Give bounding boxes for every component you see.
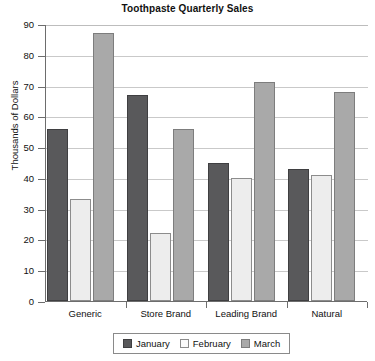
x-axis-tick: [367, 302, 368, 308]
y-axis-label: 0: [0, 297, 34, 307]
y-axis-tick: [38, 240, 45, 241]
y-axis-label: 90: [0, 20, 34, 30]
y-axis-label: 20: [0, 235, 34, 245]
bar-store-brand-january: [127, 95, 148, 301]
legend-label: January: [136, 338, 170, 349]
x-axis-label-generic: Generic: [45, 308, 126, 319]
legend-swatch-icon: [180, 339, 189, 348]
plot-area: [45, 25, 367, 302]
x-axis-label-leading-brand: Leading Brand: [206, 308, 287, 319]
legend-label: March: [254, 338, 280, 349]
legend-item-february: February: [180, 338, 231, 349]
gridline: [46, 25, 368, 26]
legend-label: February: [193, 338, 231, 349]
bar-leading-brand-february: [231, 178, 252, 301]
bar-chart: Toothpaste Quarterly Sales Thousands of …: [0, 0, 375, 361]
bar-leading-brand-january: [208, 163, 229, 302]
bar-generic-march: [93, 33, 114, 301]
y-axis-tick: [38, 210, 45, 211]
y-axis-label: 10: [0, 266, 34, 276]
y-axis-tick: [38, 179, 45, 180]
bar-natural-january: [288, 169, 309, 301]
x-axis-label-store-brand: Store Brand: [126, 308, 207, 319]
bar-store-brand-february: [150, 233, 171, 301]
chart-legend: JanuaryFebruaryMarch: [113, 333, 290, 354]
bar-natural-march: [334, 92, 355, 301]
legend-item-january: January: [123, 338, 170, 349]
y-axis-tick: [38, 87, 45, 88]
y-axis-label: 70: [0, 82, 34, 92]
legend-item-march: March: [241, 338, 280, 349]
y-axis-title: Thousands of Dollars: [9, 36, 20, 216]
legend-swatch-icon: [241, 339, 250, 348]
bar-store-brand-march: [173, 129, 194, 301]
y-axis-label: 60: [0, 112, 34, 122]
bar-leading-brand-march: [254, 82, 275, 301]
x-axis-label-natural: Natural: [287, 308, 368, 319]
bar-generic-january: [47, 129, 68, 301]
y-axis-tick: [38, 148, 45, 149]
y-axis-label: 30: [0, 205, 34, 215]
y-axis-label: 50: [0, 143, 34, 153]
y-axis-tick: [38, 25, 45, 26]
legend-swatch-icon: [123, 339, 132, 348]
chart-title: Toothpaste Quarterly Sales: [0, 3, 375, 14]
y-axis-tick: [38, 117, 45, 118]
bar-generic-february: [70, 199, 91, 301]
y-axis-label: 40: [0, 174, 34, 184]
y-axis-tick: [38, 271, 45, 272]
y-axis-tick: [38, 302, 45, 303]
y-axis-label: 80: [0, 51, 34, 61]
bar-natural-february: [311, 175, 332, 301]
y-axis-tick: [38, 56, 45, 57]
